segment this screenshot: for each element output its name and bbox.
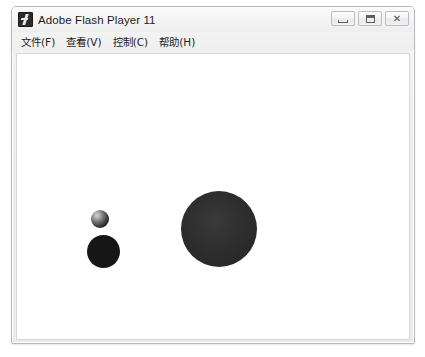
black-ball	[87, 235, 120, 268]
window-controls: ✕	[331, 11, 409, 26]
stage-container	[12, 50, 414, 344]
flash-icon	[18, 12, 33, 27]
maximize-icon	[366, 15, 375, 23]
small-glossy-sphere	[91, 210, 109, 228]
close-button[interactable]: ✕	[385, 11, 409, 26]
menu-control[interactable]: 控制(C)	[109, 33, 156, 50]
flash-player-window: Adobe Flash Player 11 ✕ 文件(F) 查看(V) 控制(C…	[11, 6, 415, 344]
minimize-icon	[338, 20, 348, 23]
screen-root: Adobe Flash Player 11 ✕ 文件(F) 查看(V) 控制(C…	[0, 0, 425, 357]
flash-stage[interactable]	[16, 53, 410, 340]
window-title: Adobe Flash Player 11	[38, 14, 156, 26]
minimize-button[interactable]	[331, 11, 355, 26]
maximize-button[interactable]	[358, 11, 382, 26]
menu-bar: 文件(F) 查看(V) 控制(C) 帮助(H)	[12, 32, 414, 50]
close-icon: ✕	[386, 12, 408, 25]
title-bar[interactable]: Adobe Flash Player 11 ✕	[12, 7, 414, 32]
menu-view[interactable]: 查看(V)	[62, 33, 108, 50]
large-dark-ball	[181, 191, 257, 267]
menu-file[interactable]: 文件(F)	[17, 33, 62, 50]
menu-help[interactable]: 帮助(H)	[155, 33, 202, 50]
